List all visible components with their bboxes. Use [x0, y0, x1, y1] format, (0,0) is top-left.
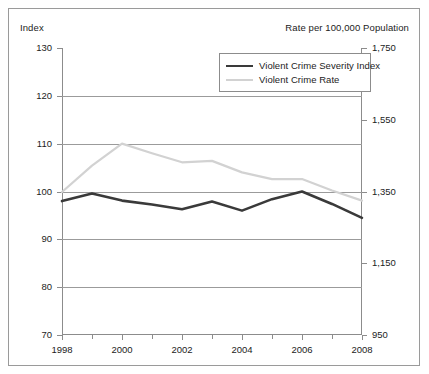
y-axis-tick-right	[362, 192, 367, 193]
x-axis-label: 2006	[282, 344, 322, 355]
y-axis-label-left: 100	[12, 187, 52, 197]
y-axis-tick-right	[362, 263, 367, 264]
chart-figure: Index Rate per 100,000 Population 708090…	[0, 0, 429, 374]
x-axis-minor-tick	[332, 335, 333, 339]
y-axis-label-left: 90	[12, 234, 52, 244]
x-axis-minor-tick	[212, 335, 213, 339]
x-axis-tick	[302, 335, 303, 340]
x-axis-label: 2000	[102, 344, 142, 355]
legend-label: Violent Crime Rate	[259, 74, 339, 85]
legend-label: Violent Crime Severity Index	[259, 60, 380, 71]
y-axis-label-left: 110	[12, 139, 52, 149]
y-axis-label-right: 1,750	[372, 43, 396, 53]
x-axis-minor-tick	[272, 335, 273, 339]
y-axis-tick-right	[362, 48, 367, 49]
x-axis-label: 1998	[42, 344, 82, 355]
left-axis-caption: Index	[20, 22, 44, 33]
legend-item: Violent Crime Rate	[226, 72, 364, 86]
y-axis-label-left: 80	[12, 282, 52, 292]
chart-legend: Violent Crime Severity Index Violent Cri…	[219, 53, 371, 92]
y-axis-label-right: 1,150	[372, 258, 396, 268]
x-axis-tick	[62, 335, 63, 340]
y-axis-label-right: 1,550	[372, 115, 396, 125]
legend-swatch-violent-crime-rate	[226, 74, 253, 84]
y-axis-tick-right	[362, 120, 367, 121]
series-line	[62, 192, 362, 218]
x-axis-tick	[242, 335, 243, 340]
x-axis-tick	[362, 335, 363, 340]
x-axis-label: 2002	[162, 344, 202, 355]
y-axis-label-right: 1,350	[372, 187, 396, 197]
y-axis-label-right: 950	[372, 330, 388, 340]
y-axis-label-left: 130	[12, 43, 52, 53]
legend-item: Violent Crime Severity Index	[226, 58, 364, 72]
right-axis-caption: Rate per 100,000 Population	[285, 22, 409, 33]
x-axis-label: 2008	[342, 344, 382, 355]
x-axis-minor-tick	[152, 335, 153, 339]
legend-swatch-violent-crime-severity-index	[226, 60, 253, 70]
x-axis-tick	[182, 335, 183, 340]
y-axis-label-left: 120	[12, 91, 52, 101]
x-axis-minor-tick	[92, 335, 93, 339]
y-axis-label-left: 70	[12, 330, 52, 340]
x-axis-tick	[122, 335, 123, 340]
series-line	[62, 144, 362, 201]
x-axis-label: 2004	[222, 344, 262, 355]
